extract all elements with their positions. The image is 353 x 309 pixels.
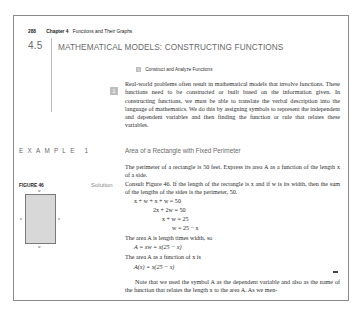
note-paragraph: Note that we used the symbol A as the de… — [125, 278, 340, 295]
objective-heading: 1 Construct and Analyze Functions — [136, 67, 212, 72]
solution-label: Solution — [91, 182, 113, 188]
textbook-page: 288 Chapter 4 Functions and Their Graphs… — [13, 15, 349, 301]
end-of-example-icon — [333, 271, 338, 273]
equation-4: w = 25 − x — [172, 225, 199, 231]
equation-2: 2x + 2w = 50 — [153, 207, 186, 213]
section-divider — [51, 38, 52, 112]
rectangle-shape — [25, 194, 56, 244]
area-equation-1: A = xw = x(25 − x) — [134, 244, 181, 250]
figure-bottom-label: w — [38, 244, 41, 249]
equation-1: x + w + x + w = 50 — [134, 198, 181, 204]
chapter-label: Chapter 4 — [46, 29, 68, 34]
example-title: Area of a Rectangle with Fixed Perimeter — [125, 147, 241, 154]
objective-label: Construct and Analyze Functions — [145, 67, 212, 72]
section-title: MATHEMATICAL MODELS: CONSTRUCTING FUNCTI… — [58, 41, 283, 52]
area-text-2: The area A as a function of x is — [125, 254, 201, 260]
equation-3: x + w = 25 — [162, 216, 189, 222]
area-equation-2: A(x) = x(25 − x) — [134, 264, 174, 270]
example-problem: The perimeter of a rectangle is 50 feet.… — [125, 163, 340, 180]
objective-marker-icon-large: 1 — [110, 87, 118, 95]
running-head: 288 Chapter 4 Functions and Their Graphs — [28, 29, 132, 34]
section-number: 4.5 — [28, 40, 43, 51]
area-text-1: The area A is length times width, so — [125, 235, 212, 241]
figure-left-label: x — [20, 216, 22, 221]
chapter-title: Functions and Their Graphs — [73, 29, 132, 34]
figure-top-label: w — [38, 188, 41, 193]
page-number: 288 — [28, 29, 36, 34]
example-label: EXAMPLE 1 — [19, 147, 92, 154]
solution-text: Consult Figure 46. If the length of the … — [125, 180, 340, 197]
intro-paragraph: Real-world problems often result in math… — [125, 80, 340, 130]
figure-right-label: x — [58, 216, 60, 221]
objective-marker-icon: 1 — [136, 67, 141, 72]
